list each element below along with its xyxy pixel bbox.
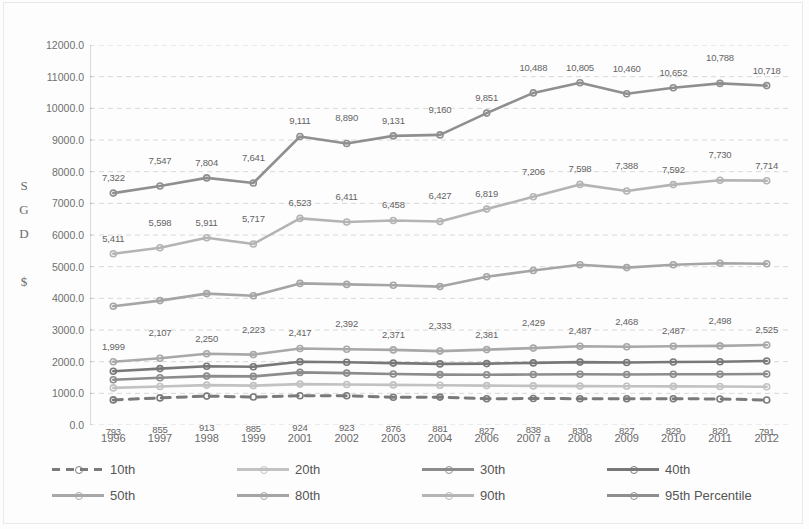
chart-legend: 10th20th30th40th50th80th90th95th Percent… — [52, 456, 792, 508]
data-label: 7,804 — [195, 157, 218, 168]
legend-swatch-icon — [422, 467, 474, 472]
data-label: 6,458 — [382, 199, 405, 210]
data-label: 2,417 — [289, 327, 312, 338]
data-label: 7,388 — [615, 160, 638, 171]
legend-swatch-icon — [52, 467, 104, 472]
x-tick-label: 2012 — [754, 432, 778, 444]
data-label: 6,427 — [429, 190, 452, 201]
data-label: 7,714 — [755, 160, 778, 171]
data-label: 9,131 — [382, 115, 405, 126]
y-tick-label: 2000.0 — [12, 356, 84, 368]
data-label: 10,718 — [753, 65, 781, 76]
y-tick-label: 5000.0 — [12, 261, 84, 273]
data-label: 10,652 — [659, 67, 687, 78]
data-label: 5,717 — [242, 213, 265, 224]
legend-label: 10th — [110, 462, 135, 477]
data-label: 5,411 — [102, 233, 124, 244]
data-label: 10,460 — [613, 63, 641, 74]
data-label: 6,411 — [336, 191, 358, 202]
x-tick-label: 2011 — [708, 432, 732, 444]
data-label: 7,592 — [662, 164, 685, 175]
legend-label: 50th — [110, 488, 135, 503]
legend-item-90th[interactable]: 90th — [422, 488, 607, 503]
x-tick-label: 2009 — [614, 432, 638, 444]
data-label: 2,468 — [615, 316, 638, 327]
x-axis-ticks: 1996199719981999200120022003200420062007… — [90, 432, 790, 450]
data-label: 2,333 — [429, 320, 452, 331]
plot-area: 7938559138859249238768818278388308278298… — [90, 45, 790, 425]
y-tick-label: 11000.0 — [12, 71, 84, 83]
x-tick-label: 2007 a — [517, 432, 551, 444]
chart-container: SGD$ 12000.011000.010000.09000.08000.070… — [0, 0, 809, 529]
x-tick-label: 2001 — [288, 432, 312, 444]
data-label: 7,206 — [522, 166, 545, 177]
data-label: 1,999 — [102, 341, 125, 352]
data-label: 9,160 — [429, 104, 452, 115]
data-label: 2,107 — [149, 327, 172, 338]
data-label: 5,598 — [149, 217, 172, 228]
data-label: 7,730 — [709, 149, 732, 160]
x-tick-label: 1998 — [194, 432, 218, 444]
series-lines — [90, 45, 790, 425]
data-label: 5,911 — [196, 217, 218, 228]
series-line-80th — [113, 263, 766, 306]
x-tick-label: 1996 — [101, 432, 125, 444]
x-tick-label: 1999 — [241, 432, 265, 444]
legend-swatch-icon — [237, 493, 289, 498]
y-tick-label: 3000.0 — [12, 324, 84, 336]
legend-swatch-icon — [422, 493, 474, 498]
legend-swatch-icon — [607, 493, 659, 498]
data-label: 2,371 — [382, 329, 405, 340]
legend-item-50th[interactable]: 50th — [52, 488, 237, 503]
y-tick-label: 0.0 — [12, 419, 84, 431]
legend-item-80th[interactable]: 80th — [237, 488, 422, 503]
legend-item-40th[interactable]: 40th — [607, 462, 792, 477]
y-tick-label: 1000.0 — [12, 387, 84, 399]
x-tick-label: 2010 — [661, 432, 685, 444]
legend-item-95th-percentile[interactable]: 95th Percentile — [607, 488, 792, 503]
y-tick-label: 12000.0 — [12, 39, 84, 51]
y-tick-label: 10000.0 — [12, 102, 84, 114]
legend-label: 20th — [295, 462, 320, 477]
legend-item-20th[interactable]: 20th — [237, 462, 422, 477]
legend-label: 40th — [665, 462, 690, 477]
data-label: 2,498 — [709, 315, 732, 326]
y-tick-label: 8000.0 — [12, 166, 84, 178]
data-label: 7,641 — [242, 152, 265, 163]
data-label: 2,525 — [755, 324, 778, 335]
x-tick-label: 1997 — [148, 432, 172, 444]
data-label: 8,890 — [335, 112, 358, 123]
x-tick-label: 2008 — [568, 432, 592, 444]
data-label: 7,547 — [149, 155, 172, 166]
data-label: 2,429 — [522, 317, 545, 328]
data-label: 10,788 — [706, 52, 734, 63]
data-label: 7,322 — [102, 172, 125, 183]
x-tick-label: 2006 — [474, 432, 498, 444]
series-line-30th — [113, 372, 766, 379]
data-label: 2,392 — [335, 318, 358, 329]
legend-label: 90th — [480, 488, 505, 503]
data-label: 6,819 — [475, 188, 498, 199]
legend-item-10th[interactable]: 10th — [52, 462, 237, 477]
data-label: 10,488 — [519, 62, 547, 73]
y-tick-label: 4000.0 — [12, 292, 84, 304]
x-tick-label: 2002 — [334, 432, 358, 444]
data-label: 2,223 — [242, 324, 265, 335]
legend-swatch-icon — [237, 467, 289, 472]
legend-swatch-icon — [52, 493, 104, 498]
data-label: 2,250 — [195, 333, 218, 344]
data-label: 2,487 — [662, 325, 685, 336]
data-label: 2,381 — [475, 329, 498, 340]
data-label: 7,598 — [569, 163, 592, 174]
data-label: 9,111 — [289, 115, 310, 126]
data-label: 10,805 — [566, 62, 594, 73]
data-point-marker — [764, 397, 770, 403]
data-label: 6,523 — [289, 197, 312, 208]
data-label: 2,487 — [569, 325, 592, 336]
legend-label: 95th Percentile — [665, 488, 752, 503]
y-tick-label: 9000.0 — [12, 134, 84, 146]
legend-item-30th[interactable]: 30th — [422, 462, 607, 477]
x-tick-label: 2004 — [428, 432, 452, 444]
x-tick-label: 2003 — [381, 432, 405, 444]
legend-swatch-icon — [607, 467, 659, 472]
